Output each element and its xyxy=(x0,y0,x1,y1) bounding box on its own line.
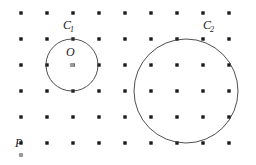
circle-label-subscript-c2: 2 xyxy=(210,25,214,34)
circle-label-subscript-c1: 1 xyxy=(70,25,74,34)
lattice-point xyxy=(123,37,126,40)
lattice-point xyxy=(71,11,74,14)
lattice-point xyxy=(175,63,178,66)
lattice-point xyxy=(201,115,204,118)
lattice-point xyxy=(97,115,100,118)
lattice-dot-group xyxy=(19,11,230,144)
lattice-point xyxy=(97,37,100,40)
lattice-point xyxy=(149,11,152,14)
lattice-point xyxy=(201,37,204,40)
point-label-o: O xyxy=(66,45,75,59)
lattice-point xyxy=(201,63,204,66)
lattice-svg-canvas: C1C2OP xyxy=(0,0,256,165)
lattice-point xyxy=(97,141,100,144)
lattice-point xyxy=(123,89,126,92)
lattice-point xyxy=(123,63,126,66)
lattice-point xyxy=(149,37,152,40)
lattice-point xyxy=(97,11,100,14)
lattice-point xyxy=(149,89,152,92)
lattice-point xyxy=(149,115,152,118)
lattice-point xyxy=(149,141,152,144)
lattice-point xyxy=(201,89,204,92)
lattice-point xyxy=(97,89,100,92)
highlight-point-p xyxy=(19,153,23,157)
lattice-point xyxy=(45,89,48,92)
lattice-point xyxy=(45,141,48,144)
lattice-point xyxy=(201,11,204,14)
lattice-point xyxy=(19,37,22,40)
lattice-point xyxy=(45,37,48,40)
lattice-point xyxy=(45,115,48,118)
lattice-point xyxy=(175,89,178,92)
lattice-point xyxy=(201,141,204,144)
lattice-point xyxy=(149,63,152,66)
lattice-figure: C1C2OP xyxy=(0,0,256,165)
lattice-point xyxy=(71,141,74,144)
lattice-point xyxy=(123,11,126,14)
lattice-point xyxy=(19,63,22,66)
lattice-point xyxy=(227,89,230,92)
lattice-point xyxy=(123,141,126,144)
lattice-point xyxy=(19,115,22,118)
lattice-point xyxy=(175,115,178,118)
point-label-p: P xyxy=(14,136,23,150)
label-group: C1C2OP xyxy=(14,18,214,150)
lattice-point xyxy=(19,11,22,14)
highlight-point-o xyxy=(70,63,74,67)
lattice-point xyxy=(227,141,230,144)
lattice-point xyxy=(227,37,230,40)
lattice-point xyxy=(45,11,48,14)
lattice-point xyxy=(227,11,230,14)
lattice-point xyxy=(71,115,74,118)
lattice-point xyxy=(123,115,126,118)
lattice-point xyxy=(175,11,178,14)
circle-group xyxy=(46,39,238,143)
lattice-point xyxy=(19,89,22,92)
